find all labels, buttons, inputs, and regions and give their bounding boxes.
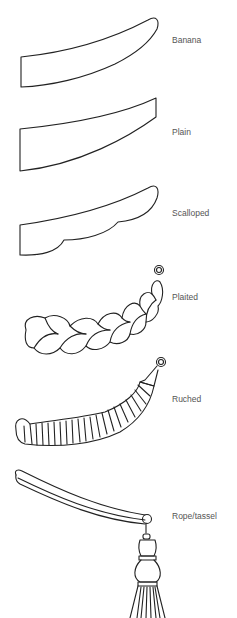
banana-tieback-icon: [21, 18, 158, 87]
label-banana: Banana: [172, 36, 201, 45]
plaited-tieback-icon: [25, 266, 163, 355]
plain-tieback-icon: [20, 98, 156, 171]
label-ruched: Ruched: [172, 395, 201, 404]
label-scalloped: Scalloped: [172, 209, 209, 218]
tieback-illustrations: [0, 0, 237, 618]
label-rope-tassel: Rope/tassel: [172, 512, 217, 521]
label-plaited: Plaited: [172, 293, 198, 302]
label-plain: Plain: [172, 128, 191, 137]
rope-tassel-tieback-icon: [15, 470, 165, 618]
ruched-tieback-icon: [16, 358, 166, 446]
scalloped-tieback-icon: [20, 186, 158, 255]
